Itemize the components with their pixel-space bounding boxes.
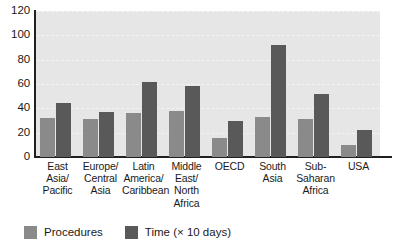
legend-label: Time (× 10 days) xyxy=(145,226,231,239)
bar-time xyxy=(142,82,157,157)
bar-group xyxy=(294,11,337,157)
x-tick-label-line: Saharan xyxy=(294,172,337,184)
x-tick-label-line: Europe/ xyxy=(79,160,122,172)
bar-time xyxy=(357,130,372,157)
y-tick-label: 100 xyxy=(11,29,30,41)
bar-group xyxy=(165,11,208,157)
bar-procedures xyxy=(298,119,313,157)
x-tick-label: SouthAsia xyxy=(251,160,294,184)
y-tick-label: 20 xyxy=(17,127,30,139)
bar-time xyxy=(185,86,200,157)
bar-group xyxy=(208,11,251,157)
x-tick-label-line: North xyxy=(165,184,208,196)
x-tick-label-line: America/ xyxy=(122,172,165,184)
bars-layer xyxy=(36,11,380,157)
x-tick-label-line: East/ xyxy=(165,172,208,184)
x-tick-label-line: Africa xyxy=(165,197,208,209)
bar-group xyxy=(251,11,294,157)
bar-group xyxy=(122,11,165,157)
chart-legend: ProceduresTime (× 10 days) xyxy=(24,222,253,242)
x-tick-label: LatinAmerica/Caribbean xyxy=(122,160,165,197)
x-tick-label-line: Asia xyxy=(251,172,294,184)
y-tick-label: 60 xyxy=(17,78,30,90)
bar-procedures xyxy=(83,119,98,157)
bar-time xyxy=(228,121,243,158)
x-tick-label-line: Pacific xyxy=(36,184,79,196)
x-tick-label: East Asia/Pacific xyxy=(36,160,79,197)
x-tick-label-line: USA xyxy=(337,160,380,172)
legend-item[interactable]: Time (× 10 days) xyxy=(125,226,231,239)
bar-chart: 020406080100120 East Asia/PacificEurope/… xyxy=(0,0,400,248)
bar-procedures xyxy=(40,118,55,157)
bar-procedures xyxy=(169,111,184,157)
legend-swatch-icon xyxy=(24,226,37,239)
x-tick-label-line: OECD xyxy=(208,160,251,172)
bar-time xyxy=(271,45,286,157)
legend-item[interactable]: Procedures xyxy=(24,226,103,239)
x-tick-label: USA xyxy=(337,160,380,172)
bar-group xyxy=(337,11,380,157)
x-tick-label: Europe/CentralAsia xyxy=(79,160,122,197)
x-tick-label-line: Middle xyxy=(165,160,208,172)
x-tick-label-line: Latin xyxy=(122,160,165,172)
bar-group xyxy=(36,11,79,157)
bar-procedures xyxy=(126,113,141,157)
y-axis-tick-labels: 020406080100120 xyxy=(0,0,34,166)
x-tick-label-line: East Asia/ xyxy=(36,160,79,184)
x-tick-label-line: Central xyxy=(79,172,122,184)
bar-time xyxy=(56,103,71,157)
x-tick-label-line: Asia xyxy=(79,184,122,196)
x-tick-label-line: Caribbean xyxy=(122,184,165,196)
y-tick-label: 80 xyxy=(17,54,30,66)
y-tick-label: 0 xyxy=(24,151,30,163)
bar-procedures xyxy=(341,145,356,157)
legend-label: Procedures xyxy=(44,226,103,239)
x-axis-category-labels: East Asia/PacificEurope/CentralAsiaLatin… xyxy=(36,160,380,218)
y-tick-label: 40 xyxy=(17,102,30,114)
bar-time xyxy=(99,112,114,157)
x-tick-label: MiddleEast/NorthAfrica xyxy=(165,160,208,209)
plot-wrapper: 020406080100120 xyxy=(0,0,400,166)
bar-procedures xyxy=(212,138,227,157)
y-tick-label: 120 xyxy=(11,5,30,17)
x-tick-label-line: South xyxy=(251,160,294,172)
legend-swatch-icon xyxy=(125,226,138,239)
bar-time xyxy=(314,94,329,157)
x-tick-label-line: Sub- xyxy=(294,160,337,172)
x-tick-label: OECD xyxy=(208,160,251,172)
bar-procedures xyxy=(255,117,270,157)
x-tick-label-line: Africa xyxy=(294,184,337,196)
bar-group xyxy=(79,11,122,157)
x-tick-label: Sub-SaharanAfrica xyxy=(294,160,337,197)
